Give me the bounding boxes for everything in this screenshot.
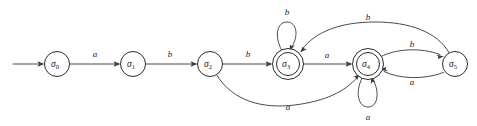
transition-label: b: [285, 7, 290, 17]
transition-label: a: [286, 102, 291, 112]
state-s4[interactable]: σ4: [353, 49, 384, 80]
self-loop-s3[interactable]: b: [277, 7, 296, 51]
transition-s5-s3[interactable]: b: [300, 12, 449, 53]
transition-label: a: [410, 77, 415, 87]
transition-line: [303, 22, 450, 53]
transition-label: b: [410, 39, 415, 49]
arrowhead-icon: [436, 55, 444, 59]
automaton-canvas: a b b a a b: [0, 0, 477, 126]
state-s2[interactable]: σ2: [198, 52, 223, 77]
transition-line: [277, 22, 296, 50]
transition-s0-s1[interactable]: a: [70, 49, 121, 67]
state-s5[interactable]: σ5: [443, 52, 468, 77]
transition-s4-s5[interactable]: b: [381, 39, 444, 59]
transition-line: [381, 50, 440, 57]
state-s1[interactable]: σ1: [121, 52, 146, 77]
state-s3[interactable]: σ3: [273, 49, 304, 80]
transition-s5-s4[interactable]: a: [380, 67, 443, 87]
state-s0[interactable]: σ0: [45, 52, 70, 77]
transition-s2-s3[interactable]: b: [223, 49, 273, 67]
transition-label: a: [366, 112, 371, 122]
transition-label: a: [93, 49, 98, 59]
transition-label: b: [366, 12, 371, 22]
transition-s3-s4[interactable]: a: [304, 50, 353, 67]
transition-label: a: [325, 50, 330, 60]
transition-s1-s2[interactable]: b: [146, 49, 198, 67]
transition-line: [358, 78, 377, 107]
automaton-diagram: a b b a a b: [0, 0, 477, 126]
self-loop-s4[interactable]: a: [358, 76, 377, 122]
transition-label: b: [168, 49, 173, 59]
start-arrow: [13, 61, 45, 67]
transition-label: b: [246, 49, 251, 59]
